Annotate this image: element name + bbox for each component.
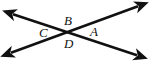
angle-label-a: A [90, 25, 98, 38]
intersecting-lines-diagram: B A C D [0, 0, 152, 71]
diagram-canvas [0, 0, 152, 71]
angle-label-c: C [39, 26, 48, 39]
angle-label-b: B [64, 14, 72, 27]
line-nw-se [13, 14, 137, 55]
angle-label-d: D [64, 37, 73, 50]
line-sw-ne [11, 6, 138, 53]
